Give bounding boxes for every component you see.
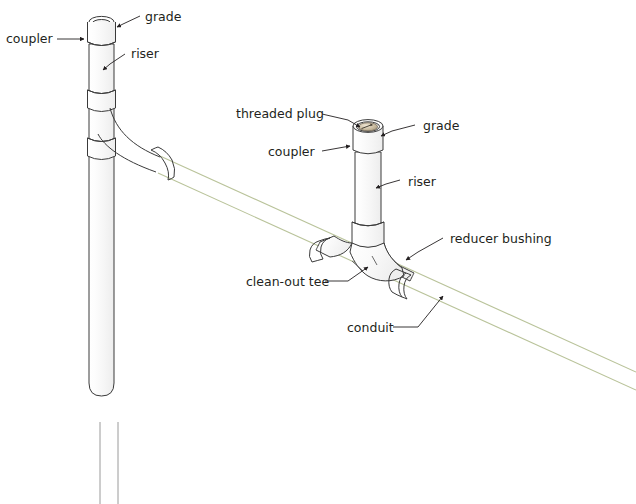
label-clean-out-tee: clean-out tee	[246, 274, 329, 289]
right-riser-pipe	[355, 152, 381, 226]
threaded-plug	[358, 123, 377, 131]
label-grade-right: grade	[423, 118, 460, 133]
label-threaded-plug: threaded plug	[236, 106, 324, 121]
label-reducer-bushing: reducer bushing	[450, 231, 552, 246]
diagram-canvas: grade coupler riser threaded plug grade …	[0, 0, 636, 504]
label-riser-left: riser	[131, 46, 160, 61]
left-upper-coupler-body	[88, 22, 116, 46]
label-coupler-right: coupler	[268, 144, 316, 159]
label-conduit: conduit	[347, 320, 394, 335]
label-grade-left: grade	[145, 9, 182, 24]
left-riser-pipe	[89, 152, 114, 396]
label-coupler-left: coupler	[6, 31, 54, 46]
piping-detail-drawing: grade coupler riser threaded plug grade …	[0, 0, 636, 504]
label-riser-right: riser	[408, 174, 437, 189]
